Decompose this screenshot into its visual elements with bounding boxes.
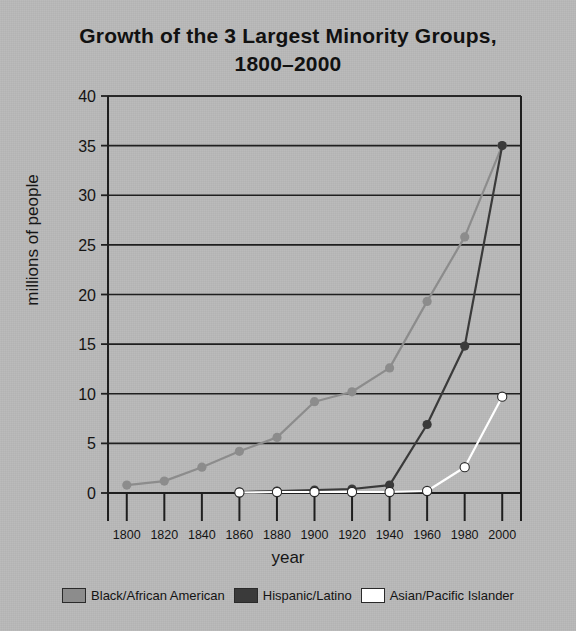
legend-swatch-asian-pacific-islander (361, 588, 385, 603)
xtick-label-1920: 1920 (338, 528, 366, 542)
xtick-label-1980: 1980 (451, 528, 479, 542)
data-point[interactable] (310, 397, 319, 406)
data-point[interactable] (235, 447, 244, 456)
data-point[interactable] (235, 488, 244, 497)
xtick-label-2000: 2000 (488, 528, 516, 542)
data-point[interactable] (498, 141, 507, 150)
data-point[interactable] (423, 297, 432, 306)
legend-item-hispanic-latino[interactable]: Hispanic/Latino (234, 588, 352, 603)
legend-item-black-african-american[interactable]: Black/African American (62, 588, 225, 603)
ytick-label-30: 30 (78, 187, 96, 204)
data-point[interactable] (310, 487, 319, 496)
xtick-label-1960: 1960 (413, 528, 441, 542)
data-point[interactable] (122, 481, 131, 490)
y-axis-label: millions of people (23, 160, 43, 320)
line-chart: 0510152025303540180018201840186018801900… (0, 0, 576, 631)
ytick-label-25: 25 (78, 237, 96, 254)
xtick-label-1860: 1860 (226, 528, 254, 542)
chart-plot-area: 0510152025303540180018201840186018801900… (0, 0, 576, 631)
legend-label-asian-pacific-islander: Asian/Pacific Islander (390, 588, 514, 603)
xtick-label-1880: 1880 (263, 528, 291, 542)
legend-swatch-hispanic-latino (234, 588, 258, 603)
xtick-label-1900: 1900 (301, 528, 329, 542)
xtick-label-1840: 1840 (188, 528, 216, 542)
data-point[interactable] (197, 463, 206, 472)
x-axis-label: year (0, 548, 576, 568)
data-point[interactable] (160, 477, 169, 486)
legend-swatch-black-african-american (62, 588, 86, 603)
data-point[interactable] (460, 342, 469, 351)
legend-label-black-african-american: Black/African American (91, 588, 225, 603)
data-point[interactable] (272, 433, 281, 442)
data-point[interactable] (347, 387, 356, 396)
series-black-african-american (122, 141, 507, 490)
data-point[interactable] (423, 486, 432, 495)
xtick-label-1940: 1940 (376, 528, 404, 542)
xtick-label-1800: 1800 (113, 528, 141, 542)
series-line (127, 146, 502, 486)
chart-legend: Black/African American Hispanic/Latino A… (0, 588, 576, 603)
data-point[interactable] (385, 487, 394, 496)
data-point[interactable] (498, 392, 507, 401)
data-point[interactable] (385, 363, 394, 372)
data-point[interactable] (423, 420, 432, 429)
data-point[interactable] (460, 463, 469, 472)
legend-item-asian-pacific-islander[interactable]: Asian/Pacific Islander (361, 588, 514, 603)
ytick-label-40: 40 (78, 88, 96, 105)
data-point[interactable] (347, 487, 356, 496)
ytick-label-5: 5 (87, 435, 96, 452)
data-point[interactable] (460, 232, 469, 241)
legend-label-hispanic-latino: Hispanic/Latino (263, 588, 352, 603)
data-point[interactable] (272, 487, 281, 496)
ytick-label-20: 20 (78, 287, 96, 304)
series-asian-pacific-islander (235, 392, 507, 497)
series-line (239, 397, 502, 493)
ytick-label-10: 10 (78, 386, 96, 403)
ytick-label-0: 0 (87, 485, 96, 502)
ytick-label-15: 15 (78, 336, 96, 353)
ytick-label-35: 35 (78, 138, 96, 155)
xtick-label-1820: 1820 (150, 528, 178, 542)
